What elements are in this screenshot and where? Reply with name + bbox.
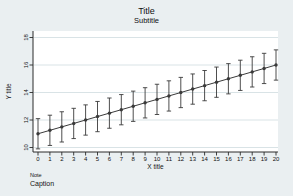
chart-title: Title (0, 6, 293, 16)
svg-text:11: 11 (166, 156, 173, 162)
svg-text:14: 14 (23, 89, 29, 96)
svg-text:10: 10 (23, 144, 29, 151)
svg-text:16: 16 (23, 61, 29, 68)
svg-text:12: 12 (177, 156, 184, 162)
svg-text:7: 7 (120, 156, 124, 162)
svg-text:10: 10 (154, 156, 161, 162)
plot-area (33, 31, 278, 152)
svg-text:18: 18 (23, 34, 29, 41)
svg-text:9: 9 (143, 156, 147, 162)
svg-text:3: 3 (72, 156, 76, 162)
svg-text:20: 20 (273, 156, 280, 162)
y-axis-title: Y title (5, 42, 12, 142)
figure: 1012141618012345678910111213141516171819… (0, 0, 293, 196)
svg-text:4: 4 (84, 156, 88, 162)
svg-text:16: 16 (225, 156, 232, 162)
svg-text:14: 14 (201, 156, 208, 162)
svg-text:2: 2 (60, 156, 64, 162)
chart-caption: Caption (30, 180, 54, 188)
svg-text:18: 18 (249, 156, 256, 162)
svg-text:15: 15 (213, 156, 220, 162)
svg-text:0: 0 (36, 156, 40, 162)
svg-text:12: 12 (23, 116, 29, 123)
svg-text:13: 13 (189, 156, 196, 162)
y-tick-labels: 1012141618 (23, 34, 33, 151)
svg-text:1: 1 (48, 156, 52, 162)
svg-text:5: 5 (96, 156, 100, 162)
x-axis-title: X title (33, 163, 278, 170)
svg-text:8: 8 (132, 156, 136, 162)
x-tick-labels: 01234567891011121314151617181920 (36, 152, 280, 162)
svg-text:19: 19 (261, 156, 268, 162)
chart-note: Note (30, 172, 42, 178)
svg-text:17: 17 (237, 156, 244, 162)
svg-text:6: 6 (108, 156, 112, 162)
chart-subtitle: Subtitle (0, 17, 293, 25)
